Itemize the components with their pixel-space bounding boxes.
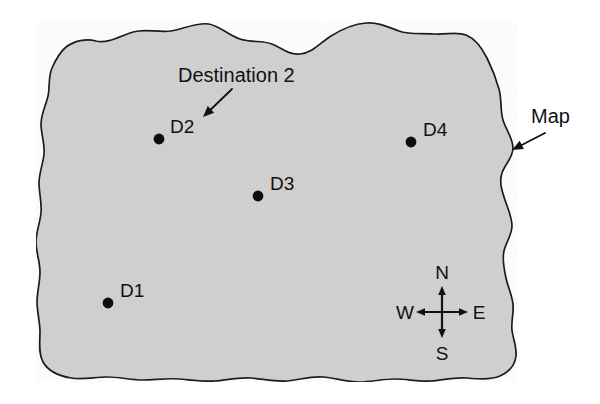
destination-label-d1: D1	[120, 280, 144, 301]
callout-leader-line-map	[520, 133, 545, 146]
destination-dot-d4[interactable]	[406, 137, 417, 148]
destination-label-d3: D3	[270, 173, 294, 194]
destination-dot-d2[interactable]	[154, 134, 165, 145]
compass-label-west: W	[396, 302, 414, 323]
callout-label-map: Map	[531, 105, 570, 127]
compass-label-east: E	[473, 302, 486, 323]
compass-label-south: S	[436, 343, 449, 364]
destination-dot-d3[interactable]	[253, 191, 264, 202]
callout-map: Map	[512, 105, 570, 150]
callout-label-destination-2: Destination 2	[178, 64, 295, 86]
compass-label-north: N	[435, 262, 449, 283]
destination-label-d4: D4	[423, 119, 448, 140]
map-diagram-canvas: D1D2D3D4 NSEW Destination 2Map	[0, 0, 600, 404]
map-figure: D1D2D3D4 NSEW Destination 2Map	[0, 0, 600, 404]
destination-label-d2: D2	[170, 116, 194, 137]
destination-dot-d1[interactable]	[103, 298, 114, 309]
